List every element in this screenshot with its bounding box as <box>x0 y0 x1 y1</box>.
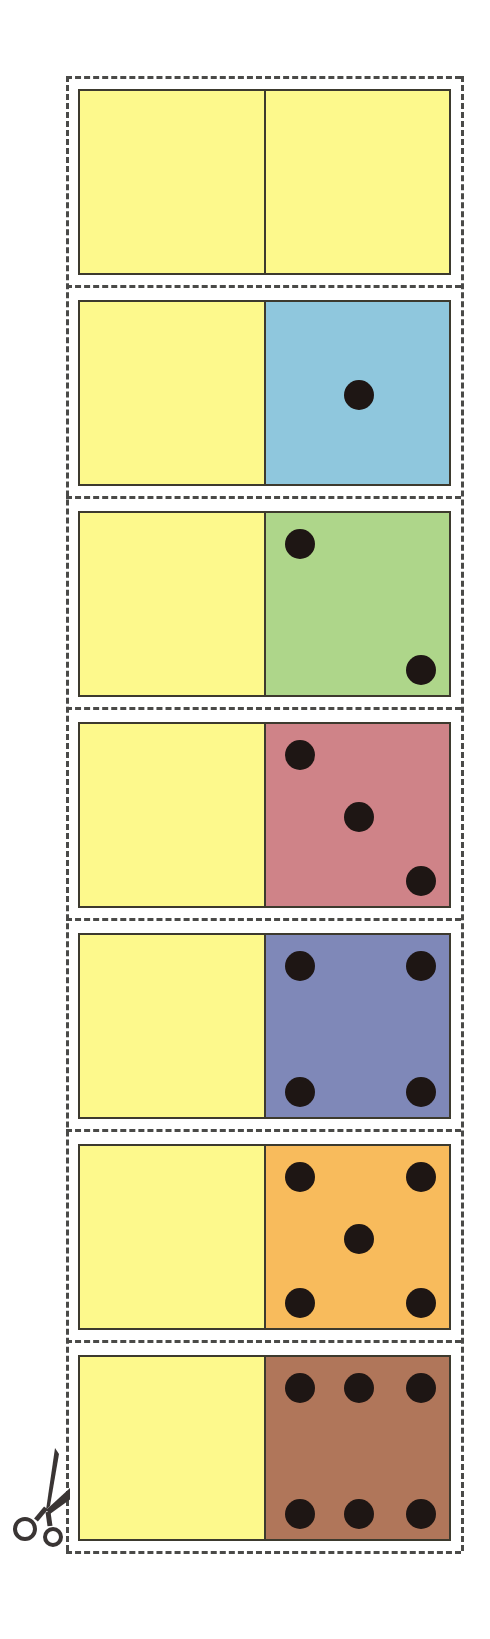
domino-strip <box>0 0 490 1639</box>
domino-0-4 <box>78 933 451 1119</box>
pip-dot <box>406 1499 436 1529</box>
pip-dot <box>406 1288 436 1318</box>
cut-line-horizontal <box>66 496 461 499</box>
domino-0-3 <box>78 722 451 908</box>
pip-dot <box>285 1499 315 1529</box>
domino-right-half <box>266 302 449 484</box>
cut-line-horizontal <box>66 1340 461 1343</box>
cut-line-right <box>461 76 464 1551</box>
domino-right-half <box>266 1357 449 1539</box>
pip-dot <box>344 380 374 410</box>
pip-dot <box>344 1499 374 1529</box>
domino-left-half <box>80 91 266 273</box>
pip-dot <box>406 655 436 685</box>
pip-dot <box>285 1162 315 1192</box>
domino-0-5 <box>78 1144 451 1330</box>
domino-0-2 <box>78 511 451 697</box>
domino-left-half <box>80 935 266 1117</box>
pip-dot <box>406 951 436 981</box>
scissors-icon <box>6 1448 70 1548</box>
pip-dot <box>406 1373 436 1403</box>
domino-left-half <box>80 302 266 484</box>
pip-dot <box>285 951 315 981</box>
pip-dot <box>344 1373 374 1403</box>
cut-line-horizontal <box>66 918 461 921</box>
domino-right-half <box>266 91 449 273</box>
domino-right-half <box>266 1146 449 1328</box>
domino-right-half <box>266 513 449 695</box>
cut-line-horizontal <box>66 707 461 710</box>
cut-line-horizontal <box>66 285 461 288</box>
pip-dot <box>285 740 315 770</box>
domino-left-half <box>80 1146 266 1328</box>
domino-right-half <box>266 935 449 1117</box>
pip-dot <box>285 1373 315 1403</box>
cut-line-horizontal <box>66 1551 461 1554</box>
pip-dot <box>285 1288 315 1318</box>
domino-left-half <box>80 724 266 906</box>
cut-line-horizontal <box>66 1129 461 1132</box>
cut-line-left <box>66 76 69 1551</box>
domino-0-0 <box>78 89 451 275</box>
pip-dot <box>406 866 436 896</box>
pip-dot <box>344 802 374 832</box>
domino-0-1 <box>78 300 451 486</box>
pip-dot <box>285 1077 315 1107</box>
domino-left-half <box>80 1357 266 1539</box>
domino-left-half <box>80 513 266 695</box>
pip-dot <box>406 1162 436 1192</box>
domino-right-half <box>266 724 449 906</box>
cut-line-horizontal <box>66 76 461 79</box>
pip-dot <box>344 1224 374 1254</box>
pip-dot <box>406 1077 436 1107</box>
pip-dot <box>285 529 315 559</box>
domino-0-6 <box>78 1355 451 1541</box>
